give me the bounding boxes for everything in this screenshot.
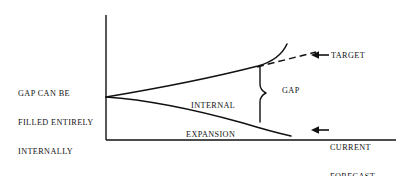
current-forecast-line-1: CURRENT bbox=[330, 143, 375, 153]
left-note-label: GAP CAN BE FILLED ENTIRELY INTERNALLY bbox=[18, 70, 93, 176]
current-forecast-label: CURRENT FORECAST bbox=[330, 124, 375, 176]
gap-brace bbox=[260, 66, 266, 122]
target-label: TARGET bbox=[331, 51, 365, 61]
left-note-line-3: INTERNALLY bbox=[18, 147, 93, 157]
current-forecast-arrow-head-icon bbox=[311, 126, 319, 134]
internal-expansion-line-1: INTERNAL bbox=[186, 101, 235, 111]
gap-analysis-figure: GAP CAN BE FILLED ENTIRELY INTERNALLY IN… bbox=[0, 0, 406, 176]
left-note-line-2: FILLED ENTIRELY bbox=[18, 118, 93, 128]
left-note-line-1: GAP CAN BE bbox=[18, 89, 93, 99]
internal-expansion-line-2: EXPANSION bbox=[186, 130, 235, 140]
current-forecast-line-2: FORECAST bbox=[330, 172, 375, 176]
internal-expansion-label: INTERNAL EXPANSION bbox=[186, 82, 235, 159]
target-dashed-line bbox=[257, 52, 316, 67]
gap-label: GAP bbox=[282, 86, 300, 96]
